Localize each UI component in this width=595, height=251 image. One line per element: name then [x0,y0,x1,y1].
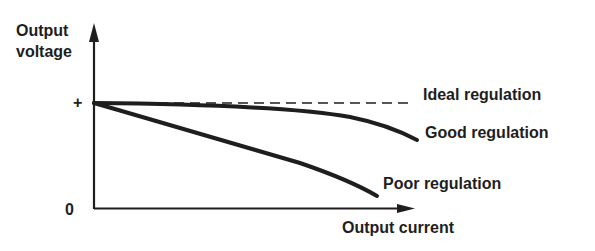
y-axis-arrow-icon [89,23,99,42]
zero-tick-label: 0 [65,201,74,219]
regulation-diagram: Output voltage + 0 Ideal regulation Good… [0,0,595,251]
good-regulation-curve [94,103,417,140]
poor-regulation-curve [94,103,377,196]
y-axis-label-line2: voltage [16,43,72,61]
y-axis-label-line1: Output [16,22,68,40]
plus-tick-label: + [73,94,82,112]
x-axis-label: Output current [342,219,454,237]
ideal-regulation-label: Ideal regulation [423,86,541,104]
poor-regulation-label: Poor regulation [383,175,501,193]
x-axis-arrow-icon [397,204,415,213]
good-regulation-label: Good regulation [425,124,549,142]
